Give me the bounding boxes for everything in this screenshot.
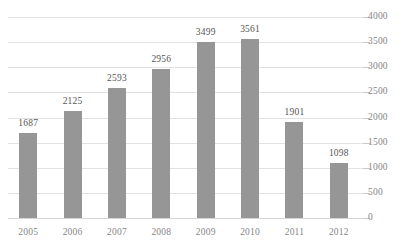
bar-value-label: 2593 <box>107 74 127 84</box>
bar-chart: 16872125259329563499356119011098 0500100… <box>0 0 402 245</box>
x-axis-category-label: 2009 <box>196 228 216 238</box>
y-axis-tick-label: 3500 <box>368 37 388 47</box>
gridline <box>8 168 363 169</box>
y-axis-tick-label: 2000 <box>368 113 388 123</box>
x-axis-category-label: 2012 <box>329 228 349 238</box>
bar <box>19 133 37 218</box>
y-axis-tick-label: 4000 <box>368 12 388 22</box>
gridline <box>8 67 363 68</box>
gridline <box>8 118 363 119</box>
bar-value-label: 2956 <box>151 55 171 65</box>
gridline <box>8 143 363 144</box>
x-axis-category-label: 2011 <box>285 228 304 238</box>
bar-value-label: 3561 <box>240 25 260 35</box>
y-axis-tick-label: 3000 <box>368 63 388 73</box>
bar-value-label: 3499 <box>196 28 216 38</box>
bar <box>64 111 82 218</box>
bar-value-label: 1098 <box>329 149 349 159</box>
bar <box>285 122 303 218</box>
gridline <box>8 193 363 194</box>
y-axis-tick-label: 1500 <box>368 138 388 148</box>
x-axis-category-label: 2010 <box>240 228 260 238</box>
bar <box>241 39 259 218</box>
bar-value-label: 2125 <box>63 97 83 107</box>
gridline <box>8 17 363 18</box>
bar <box>330 163 348 218</box>
bar <box>108 88 126 218</box>
x-axis-category-label: 2006 <box>63 228 83 238</box>
gridline <box>8 42 363 43</box>
x-axis: 20052006200720082009201020112012 <box>8 219 363 245</box>
y-axis-tick-label: 0 <box>368 213 373 223</box>
y-axis-tick-label: 500 <box>368 188 383 198</box>
plot-area: 16872125259329563499356119011098 <box>8 17 363 218</box>
bar-value-label: 1687 <box>18 119 38 129</box>
bar-value-label: 1901 <box>285 108 305 118</box>
x-axis-category-label: 2008 <box>151 228 171 238</box>
gridline <box>8 92 363 93</box>
bar <box>197 42 215 218</box>
x-axis-category-label: 2005 <box>18 228 38 238</box>
y-axis-tick-label: 2500 <box>368 88 388 98</box>
bar <box>152 69 170 218</box>
x-axis-category-label: 2007 <box>107 228 127 238</box>
y-axis-tick-label: 1000 <box>368 163 388 173</box>
